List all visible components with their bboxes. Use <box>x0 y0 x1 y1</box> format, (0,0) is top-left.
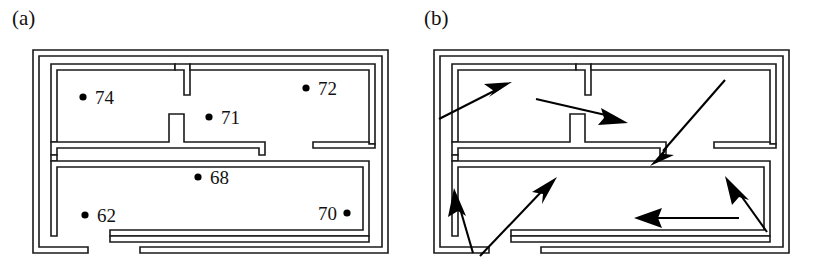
sensor-group-a: 74 72 71 68 62 70 <box>79 78 350 226</box>
arrow-head <box>634 208 662 228</box>
arrow-head <box>598 108 628 125</box>
arrow-horizontal-left <box>634 208 739 228</box>
bottom-interior-wall <box>511 236 770 242</box>
panel-a-plan: 74 72 71 68 62 70 <box>0 0 412 273</box>
horizontal-divider-left <box>452 114 666 155</box>
arrow-upper-left-outbound <box>439 82 512 119</box>
outer-wall <box>434 50 789 253</box>
sensor-dot-71 <box>205 113 212 120</box>
arrow-shaft <box>439 88 500 119</box>
figure-root: (a) <box>0 0 825 273</box>
arrow-shaft <box>663 80 725 151</box>
vertical-t-wall-upper <box>175 64 190 95</box>
lower-room-top-wall <box>452 155 458 161</box>
panel-b-plan <box>412 0 825 273</box>
panel-b: (b) <box>412 0 825 273</box>
upper-room-right-wall <box>190 64 375 144</box>
arrow-lower-mid-up-right <box>480 177 557 256</box>
sensor-dot-74 <box>79 93 86 100</box>
sensor-dot-68 <box>194 173 201 180</box>
sensor-label-71: 71 <box>221 107 240 128</box>
panel-a: (a) <box>0 0 412 273</box>
horizontal-divider-right <box>714 142 776 148</box>
sensor-label-62: 62 <box>97 205 116 226</box>
sensor-label-68: 68 <box>210 167 229 188</box>
wall-group-b <box>434 50 789 253</box>
sensor-dot-62 <box>81 211 88 218</box>
arrow-long-diagonal-inward <box>650 80 725 166</box>
lower-room-top-wall <box>51 155 57 161</box>
horizontal-divider-right <box>313 142 375 148</box>
arrow-lower-right-up-left <box>725 176 767 232</box>
sensor-label-74: 74 <box>95 87 115 108</box>
arrow-shaft <box>480 190 543 256</box>
bottom-interior-wall <box>110 236 369 242</box>
lower-room-enclosure <box>452 161 770 236</box>
sensor-label-72: 72 <box>318 78 337 99</box>
arrow-head <box>532 177 557 204</box>
sensor-dot-72 <box>302 84 309 91</box>
sensor-dot-70 <box>343 209 350 216</box>
sensor-label-70: 70 <box>318 203 337 224</box>
upper-room-right-wall <box>591 64 776 144</box>
vertical-t-wall-upper <box>576 64 591 95</box>
